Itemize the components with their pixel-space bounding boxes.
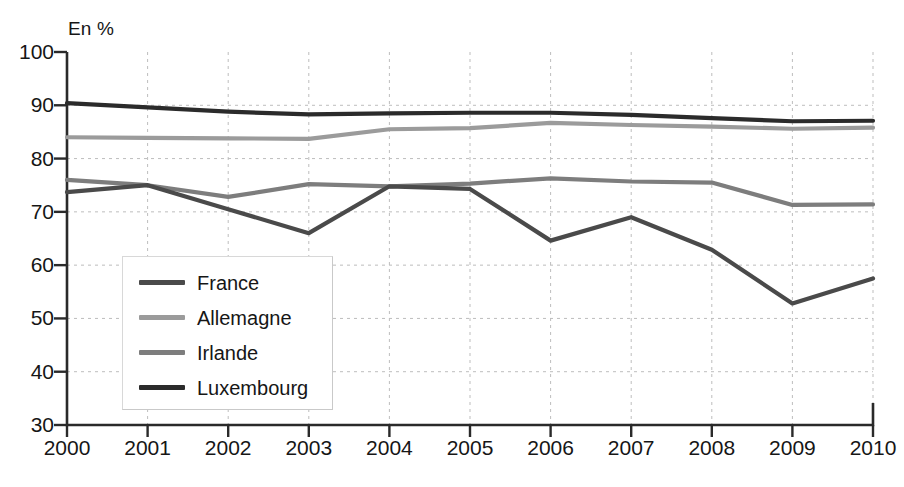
line-chart: En % 10090807060504030 20002001200220032…	[0, 0, 904, 487]
y-axis-tick-label: 70	[8, 200, 54, 224]
chart-legend: FranceAllemagneIrlandeLuxembourg	[122, 256, 333, 410]
x-axis-tick-label: 2003	[285, 436, 332, 460]
legend-item[interactable]: France	[123, 265, 332, 300]
legend-color-swatch	[139, 280, 185, 285]
y-axis-tick-label: 80	[8, 147, 54, 171]
legend-item[interactable]: Allemagne	[123, 300, 332, 335]
y-axis-tick-label: 100	[8, 40, 54, 64]
x-axis-tick-label: 2007	[608, 436, 655, 460]
y-axis-tick-label: 30	[8, 413, 54, 437]
plot-area	[0, 0, 904, 487]
x-axis-tick-label: 2001	[124, 436, 171, 460]
x-axis-tick-label: 2006	[527, 436, 574, 460]
x-axis-tick-label: 2004	[366, 436, 413, 460]
legend-item[interactable]: Irlande	[123, 335, 332, 370]
x-axis-tick-label: 2008	[688, 436, 735, 460]
y-axis-labels: 10090807060504030	[6, 0, 54, 487]
y-axis-tick-label: 40	[8, 360, 54, 384]
legend-color-swatch	[139, 350, 185, 355]
x-axis-tick-label: 2009	[769, 436, 816, 460]
series-line-luxembourg	[67, 103, 873, 121]
legend-item-label: Irlande	[197, 343, 258, 363]
legend-item[interactable]: Luxembourg	[123, 370, 332, 405]
x-axis-tick-label: 2002	[205, 436, 252, 460]
y-axis-tick-label: 60	[8, 253, 54, 277]
legend-color-swatch	[139, 315, 185, 320]
x-axis-tick-label: 2010	[850, 436, 897, 460]
legend-item-label: France	[197, 273, 259, 293]
legend-item-label: Allemagne	[197, 308, 292, 328]
y-axis-tick-label: 50	[8, 306, 54, 330]
x-axis-tick-label: 2005	[447, 436, 494, 460]
x-axis-tick-label: 2000	[44, 436, 91, 460]
y-axis-tick-label: 90	[8, 93, 54, 117]
legend-color-swatch	[139, 385, 185, 390]
legend-item-label: Luxembourg	[197, 378, 308, 398]
